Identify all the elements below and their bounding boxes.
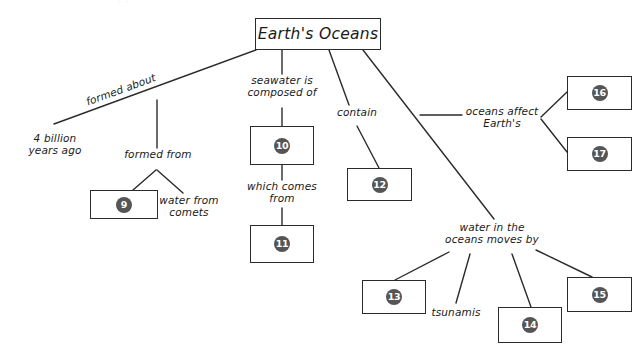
edge-formed-from-to-water-comets xyxy=(157,170,183,193)
link-label-oceans-affect-earths: oceans affect Earth's xyxy=(462,105,542,130)
answer-box-11[interactable]: 11 xyxy=(250,225,314,263)
blank-number-17: 17 xyxy=(592,146,608,162)
top-edge-artifact: · · xyxy=(118,0,130,7)
node-earths-oceans-label: Earth's Oceans xyxy=(258,25,379,43)
answer-box-16[interactable]: 16 xyxy=(567,76,632,110)
blank-number-15: 15 xyxy=(592,287,608,303)
answer-box-12[interactable]: 12 xyxy=(347,168,412,201)
edge-contain-to-blank-12 xyxy=(357,126,379,168)
blank-number-16: 16 xyxy=(592,85,608,101)
blank-number-10: 10 xyxy=(274,138,290,154)
blank-number-13: 13 xyxy=(386,289,402,305)
edge-root-to-formed-about xyxy=(54,50,256,124)
blank-number-14: 14 xyxy=(522,317,538,333)
answer-box-9[interactable]: 9 xyxy=(90,190,158,219)
link-label-contain: contain xyxy=(326,106,388,118)
link-label-formed-about: formed about xyxy=(72,67,170,113)
blank-number-12: 12 xyxy=(372,177,388,193)
link-label-formed-from: formed from xyxy=(112,148,204,160)
concept-map-canvas: · · Earth's Oceans formed xyxy=(0,0,642,356)
answer-box-14[interactable]: 14 xyxy=(498,307,562,343)
link-label-seawater-is-composed-of: seawater is composed of xyxy=(236,74,328,99)
answer-box-13[interactable]: 13 xyxy=(362,280,426,314)
edge-water-moves-to-tsunamis xyxy=(456,254,470,303)
answer-box-10[interactable]: 10 xyxy=(250,126,314,165)
blank-number-11: 11 xyxy=(274,236,290,252)
node-earths-oceans[interactable]: Earth's Oceans xyxy=(255,18,381,50)
blank-number-9: 9 xyxy=(116,197,132,213)
edge-oceans-affect-to-blank-17 xyxy=(541,119,567,152)
answer-box-15[interactable]: 15 xyxy=(567,277,632,312)
link-label-tsunamis: tsunamis xyxy=(424,306,488,318)
link-label-4-billion-years-ago: 4 billion years ago xyxy=(14,132,96,157)
edge-oceans-affect-to-blank-16 xyxy=(541,92,567,117)
answer-box-17[interactable]: 17 xyxy=(567,137,632,171)
edge-water-moves-to-blank-15 xyxy=(536,250,592,277)
edge-formed-from-to-blank-9 xyxy=(133,170,156,190)
edge-layer xyxy=(0,0,642,356)
link-label-which-comes-from: which comes from xyxy=(237,180,327,205)
edge-root-to-contain xyxy=(329,50,349,105)
link-label-water-from-comets: water from comets xyxy=(155,194,223,219)
link-label-water-in-the-oceans-moves-by: water in the oceans moves by xyxy=(432,221,552,246)
edge-water-moves-to-blank-13 xyxy=(395,252,449,280)
edge-water-moves-to-blank-14 xyxy=(512,254,531,307)
